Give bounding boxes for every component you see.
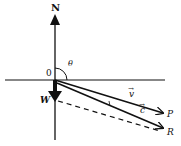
north-arrowhead-icon [50,14,60,25]
velocity-vector [55,80,163,113]
origin-label: 0 [46,68,52,78]
resultant-arrow-icon: → [139,101,145,109]
vector-diagram: N 0 θ W v → P c → R [0,0,181,146]
point-p-label: P [166,109,174,119]
angle-arc [55,68,67,80]
velocity-arrow-icon: → [128,85,134,93]
angle-label: θ [68,59,73,68]
north-label: N [51,2,60,13]
point-r-label: R [166,127,174,137]
wind-label: W [40,95,51,105]
